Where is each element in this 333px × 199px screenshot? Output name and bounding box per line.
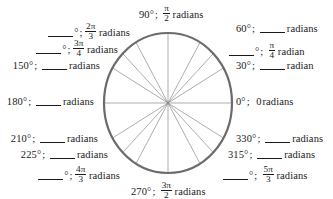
spoke-135 [123, 54, 168, 104]
unit-270: radians [174, 186, 206, 197]
radian-blank-150[interactable] [42, 61, 67, 70]
label-330: 330°; radians [236, 134, 323, 145]
degree-blank-135[interactable] [36, 45, 61, 54]
separator-150: ; [33, 60, 38, 71]
separator-180: ; [27, 96, 32, 107]
unit-180: radians [62, 96, 94, 107]
degree-value-90: 90 [139, 9, 150, 20]
fraction-denominator-240: 3 [75, 175, 86, 184]
unit-150: radians [68, 60, 100, 71]
spoke-225 [123, 103, 168, 153]
label-30: 30°; radian [236, 61, 314, 72]
degree-blank-300[interactable] [223, 171, 248, 180]
label-0: 0°; 0radians [236, 97, 294, 108]
separator-0: ; [246, 96, 251, 107]
degree-value-210: 210 [11, 133, 27, 144]
radian-blank-60[interactable] [260, 24, 285, 33]
degree-blank-120[interactable] [48, 28, 73, 37]
unit-60: radians [286, 23, 318, 34]
separator-135: ; [67, 44, 72, 55]
fraction-denominator-270: 2 [161, 191, 172, 199]
unit-135: radians [86, 44, 118, 55]
label-240: °;4π3radians [20, 165, 120, 185]
unit-225: radians [76, 149, 108, 160]
separator-90: ; [154, 9, 159, 20]
separator-240: ; [69, 170, 74, 181]
label-180: 180°; radians [2, 97, 94, 108]
fraction-135: 3π4 [73, 39, 84, 59]
label-300: °; 5π3radians [222, 165, 308, 185]
fraction-denominator-45: 4 [269, 51, 276, 60]
degree-value-180: 180 [7, 96, 23, 107]
label-45: °; π4radian [228, 41, 305, 61]
degree-value-150: 150 [13, 60, 29, 71]
radian-blank-315[interactable] [257, 150, 282, 159]
fraction-45: π4 [269, 41, 276, 61]
unit-45: radian [277, 46, 305, 57]
separator-315: ; [248, 149, 253, 160]
unit-300: radians [276, 170, 308, 181]
unit-90: radians [172, 9, 204, 20]
degree-value-60: 60 [236, 23, 247, 34]
unit-circle-worksheet: °;2π3radians °;3π4radians 150°; radians … [0, 0, 333, 199]
label-135: °;3π4radians [18, 39, 118, 59]
separator-30: ; [251, 60, 256, 71]
separator-45: ; [259, 46, 264, 57]
label-210: 210°; radians [6, 134, 98, 145]
spoke-60 [168, 42, 200, 103]
fraction-300: 5π3 [263, 165, 274, 185]
separator-120: ; [79, 27, 84, 38]
fraction-240: 4π3 [75, 165, 86, 185]
radian-blank-330[interactable] [265, 134, 290, 143]
unit-210: radians [66, 133, 98, 144]
degree-symbol-240: ° [64, 170, 68, 181]
radian-blank-30[interactable] [260, 61, 285, 70]
degree-blank-240[interactable] [38, 171, 63, 180]
separator-330: ; [256, 133, 261, 144]
degree-value-225: 225 [21, 149, 37, 160]
spoke-45 [168, 54, 213, 104]
degree-value-270: 270 [131, 186, 147, 197]
fraction-denominator-135: 4 [73, 49, 84, 58]
degree-symbol-120: ° [74, 27, 78, 38]
fraction-90: π2 [163, 4, 170, 24]
label-270: 270°; 3π2radians [131, 181, 206, 199]
separator-270: ; [151, 186, 156, 197]
degree-symbol-135: ° [62, 44, 66, 55]
unit-240: radians [88, 170, 120, 181]
label-225: 225°; radians [16, 150, 108, 161]
radian-blank-210[interactable] [40, 134, 65, 143]
unit-0: radians [262, 96, 294, 107]
label-90: 90°; π2radians [139, 4, 204, 24]
radian-blank-225[interactable] [50, 150, 75, 159]
label-60: 60°; radians [236, 24, 318, 35]
spoke-240 [136, 103, 168, 164]
radian-blank-180[interactable] [36, 97, 61, 106]
spoke-120 [136, 42, 168, 103]
spoke-300 [168, 103, 200, 164]
radian-value-0: 0 [256, 96, 261, 107]
fraction-denominator-300: 3 [263, 175, 274, 184]
unit-315: radians [283, 149, 315, 160]
label-315: 315°; radians [228, 150, 315, 161]
separator-225: ; [41, 149, 46, 160]
degree-value-315: 315 [228, 149, 244, 160]
label-150: 150°; radians [8, 61, 100, 72]
degree-blank-45[interactable] [229, 47, 254, 56]
fraction-denominator-90: 2 [163, 14, 170, 23]
degree-value-30: 30 [236, 60, 247, 71]
unit-330: radians [291, 133, 323, 144]
unit-30: radian [286, 60, 314, 71]
unit-120: radians [98, 27, 130, 38]
separator-210: ; [31, 133, 36, 144]
separator-300: ; [253, 170, 258, 181]
fraction-270: 3π2 [161, 181, 172, 199]
degree-value-330: 330 [236, 133, 252, 144]
spoke-315 [168, 103, 213, 153]
separator-60: ; [251, 23, 256, 34]
